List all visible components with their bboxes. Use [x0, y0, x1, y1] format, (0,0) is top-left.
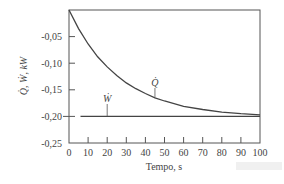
y-axis-labels: -0,05 -0,10 -0,15 -0,20 -0,25 [41, 31, 62, 149]
x-tick-label: 50 [160, 147, 170, 158]
y-tick-label: -0,10 [41, 58, 62, 69]
y-tick-label: -0,15 [41, 84, 62, 95]
x-tick-label: 90 [236, 147, 246, 158]
series-q-curve [69, 10, 260, 115]
x-tick-label: 0 [67, 147, 72, 158]
x-tick-label: 100 [253, 147, 268, 158]
y-tick-label: -0,05 [41, 31, 62, 42]
plot-frame [69, 10, 260, 143]
x-axis-title: Tempo, s [146, 161, 183, 172]
x-tick-label: 60 [179, 147, 189, 158]
x-tick-label: 80 [217, 147, 227, 158]
x-tick-label: 10 [83, 147, 93, 158]
x-axis-labels: 0 10 20 30 40 50 60 70 80 90 100 [67, 147, 268, 158]
y-tick-label: -0,20 [41, 111, 62, 122]
x-axis-ticks [88, 137, 241, 143]
series-w-label: Ẇ [103, 93, 113, 104]
x-tick-label: 20 [102, 147, 112, 158]
series-q-label: Q̇ [151, 77, 159, 88]
x-tick-label: 30 [121, 147, 131, 158]
y-tick-label: -0,25 [41, 138, 62, 149]
x-tick-label: 70 [198, 147, 208, 158]
y-axis-title: Q̇, Ẇ, kW [18, 55, 29, 95]
watermark [236, 162, 282, 170]
x-tick-label: 40 [140, 147, 150, 158]
chart: -0,05 -0,10 -0,15 -0,20 -0,25 0 10 20 30… [0, 0, 284, 184]
